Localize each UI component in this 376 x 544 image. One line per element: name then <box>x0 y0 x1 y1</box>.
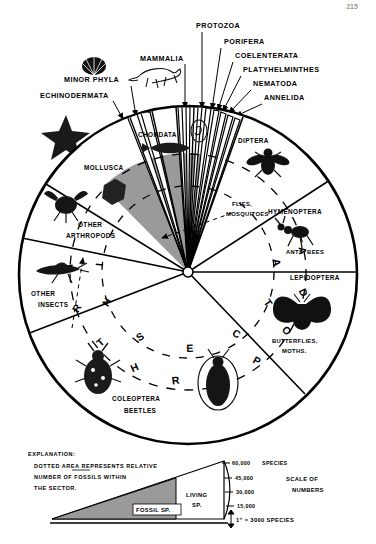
scale-title-1: SCALE OF <box>286 476 318 482</box>
callout-porifera: PORIFERA <box>224 37 265 46</box>
scale-tick-60000-suffix: SPECIES <box>262 460 288 466</box>
sector-label-other-insects-2: INSECTS <box>38 301 69 308</box>
leader-coelenterata <box>218 62 233 110</box>
sector-label-lepidoptera-sub-2: MOTHS. <box>282 348 307 354</box>
callout-platyhelminthes: PLATYHELMINTHES <box>243 65 320 74</box>
callout-echinodermata: ECHINODERMATA <box>40 91 109 100</box>
callout-minor-phyla: MINOR PHYLA <box>64 75 119 84</box>
scale-tick-45000: 45,000 <box>235 475 253 481</box>
sector-label-coleoptera-sub: BEETLES <box>124 407 157 414</box>
pie-center-hub <box>183 267 193 277</box>
cat-icon <box>129 69 181 88</box>
svg-text:E: E <box>186 342 193 354</box>
sector-label-other-arthropods-1: OTHER <box>78 221 102 228</box>
legend-living-label-1: LIVING <box>186 492 208 498</box>
sector-label-chordata: CHORDATA <box>138 131 177 138</box>
shell-icon <box>82 57 106 75</box>
leader-platyhelminthes <box>223 76 241 111</box>
leader-porifera <box>212 48 221 109</box>
sector-label-hymenoptera-sub: ANTS, BEES <box>286 249 324 255</box>
scale-tick-15000: 15,000 <box>237 503 255 509</box>
sector-label-mollusca: MOLLUSCA <box>84 164 123 171</box>
sector-label-diptera: DIPTERA <box>238 137 269 144</box>
scale-title-2: NUMBERS <box>292 487 324 493</box>
leader-echinodermata <box>113 101 123 119</box>
legend-line-2: NUMBER OF FOSSILS WITHIN <box>34 474 127 480</box>
legend-heading: EXPLANATION: <box>28 451 75 457</box>
sector-label-diptera-sub-1: FLIES, <box>232 201 252 207</box>
legend-line-3: THE SECTOR. <box>34 485 77 491</box>
scale-tick-60000: 60,000 <box>232 460 250 466</box>
callout-nematoda: NEMATODA <box>253 79 297 88</box>
sector-label-hymenoptera: HYMENOPTERA <box>268 208 322 215</box>
page-number: 215 <box>346 3 358 10</box>
figure-canvas: 215 ECHINODERMATA MINOR PHYLA MAMMALIA P… <box>0 0 376 544</box>
scale-tick-30000: 30,000 <box>236 489 254 495</box>
sector-label-other-arthropods-2: ARTHROPODS <box>66 232 116 239</box>
callout-annelida: ANNELIDA <box>264 93 305 102</box>
legend-line-1: DOTTED AREA REPRESENTS RELATIVE <box>34 463 158 469</box>
callout-mammalia: MAMMALIA <box>140 54 184 63</box>
legend-fossil-label: FOSSIL SP. <box>136 507 171 513</box>
leader-minor-phyla <box>131 86 136 116</box>
callout-protozoa: PROTOZOA <box>196 21 240 30</box>
sector-label-lepidoptera: LEPIDOPTERA <box>290 274 340 281</box>
callout-coelenterata: COELENTERATA <box>235 51 298 60</box>
species-pie-diagram: 215 ECHINODERMATA MINOR PHYLA MAMMALIA P… <box>0 0 376 544</box>
unit-arrow <box>228 510 234 528</box>
sector-label-other-insects-1: OTHER <box>31 290 55 297</box>
legend-living-label-2: SP. <box>192 502 202 508</box>
unit-note: 1" = 3000 SPECIES <box>236 517 294 523</box>
sector-label-coleoptera: COLEOPTERA <box>112 395 160 402</box>
sector-label-diptera-sub-2: MOSQUITOES <box>226 211 269 217</box>
sector-label-lepidoptera-sub-1: BUTTERFLIES, <box>272 338 318 344</box>
